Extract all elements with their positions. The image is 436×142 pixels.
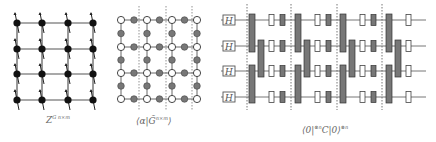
- arrow-head-icon: [39, 89, 42, 92]
- white-node: [168, 95, 175, 102]
- white-node: [168, 69, 175, 76]
- single-qubit-gate: [360, 66, 365, 77]
- circuit-label: ⟨0|⊗nC|0⟩⊗n: [302, 124, 348, 135]
- two-qubit-gate: [258, 40, 264, 77]
- white-node: [143, 43, 150, 50]
- gray-node: [156, 70, 163, 77]
- single-qubit-gate: [269, 15, 274, 26]
- arrow-head-icon: [65, 89, 68, 92]
- two-qubit-gate: [340, 65, 346, 103]
- single-qubit-gate: [269, 41, 274, 52]
- single-qubit-gate-filled: [326, 92, 331, 103]
- gray-node: [181, 70, 188, 77]
- single-qubit-gate-filled: [326, 41, 331, 52]
- spin-node: [13, 70, 20, 77]
- single-qubit-gate: [269, 92, 274, 103]
- spin-node: [13, 96, 20, 103]
- gray-node: [169, 57, 176, 64]
- spin-node: [38, 96, 45, 103]
- single-qubit-gate-filled: [280, 66, 285, 77]
- tensor-grid-label: ⟨α|G̃n×m⟩: [136, 115, 171, 126]
- two-qubit-gate: [349, 40, 355, 77]
- spin-node: [38, 70, 45, 77]
- white-node: [168, 16, 175, 23]
- gray-node: [131, 96, 138, 103]
- two-qubit-gate: [295, 65, 301, 103]
- ising-lattice: [13, 12, 96, 110]
- single-qubit-gate: [315, 41, 320, 52]
- spin-node: [64, 19, 71, 26]
- white-node: [168, 43, 175, 50]
- two-qubit-gate: [395, 40, 401, 77]
- single-qubit-gate: [269, 66, 274, 77]
- single-qubit-gate-filled: [371, 66, 376, 77]
- white-node: [143, 69, 150, 76]
- two-qubit-gate: [249, 65, 255, 103]
- single-qubit-gate: [360, 41, 365, 52]
- single-qubit-gate-filled: [326, 66, 331, 77]
- white-node: [117, 43, 124, 50]
- gray-node: [169, 30, 176, 37]
- gray-node: [144, 30, 151, 37]
- white-node: [193, 43, 200, 50]
- single-qubit-gate: [406, 15, 411, 26]
- single-qubit-gate: [406, 92, 411, 103]
- arrow-head-icon: [39, 12, 42, 15]
- gray-node: [131, 44, 138, 51]
- two-qubit-gate: [249, 14, 255, 52]
- arrow-head-icon: [14, 63, 17, 66]
- hadamard-label: H: [224, 67, 233, 77]
- spin-node: [89, 70, 96, 77]
- single-qubit-gate-filled: [371, 92, 376, 103]
- quantum-circuit: HHHH: [221, 4, 426, 110]
- two-qubit-gate: [386, 14, 392, 52]
- two-qubit-gate: [340, 14, 346, 52]
- arrow-head-icon: [90, 89, 93, 92]
- single-qubit-gate-filled: [371, 15, 376, 26]
- white-node: [193, 95, 200, 102]
- gray-node: [181, 17, 188, 24]
- white-node: [143, 95, 150, 102]
- white-node: [193, 16, 200, 23]
- gray-node: [156, 44, 163, 51]
- gray-node: [194, 30, 201, 37]
- spin-node: [64, 45, 71, 52]
- arrow-head-icon: [90, 63, 93, 66]
- arrow-head-icon: [39, 63, 42, 66]
- arrow-head-icon: [65, 63, 68, 66]
- arrow-head-icon: [14, 89, 17, 92]
- single-qubit-gate-filled: [280, 41, 285, 52]
- spin-node: [13, 19, 20, 26]
- single-qubit-gate-filled: [280, 15, 285, 26]
- arrow-head-icon: [90, 38, 93, 41]
- single-qubit-gate-filled: [371, 41, 376, 52]
- gray-node: [194, 83, 201, 90]
- single-qubit-gate: [315, 15, 320, 26]
- spin-node: [64, 70, 71, 77]
- white-node: [117, 95, 124, 102]
- arrow-head-icon: [90, 12, 93, 15]
- gray-node: [131, 70, 138, 77]
- gray-node: [194, 57, 201, 64]
- spin-node: [89, 96, 96, 103]
- spin-node: [89, 19, 96, 26]
- spin-node: [64, 96, 71, 103]
- gray-node: [156, 96, 163, 103]
- single-qubit-gate: [406, 41, 411, 52]
- gray-node: [131, 17, 138, 24]
- hadamard-label: H: [224, 42, 233, 52]
- gray-node: [118, 30, 125, 37]
- gray-node: [144, 83, 151, 90]
- ising-label: ZG n×m: [46, 114, 70, 125]
- gray-node: [181, 44, 188, 51]
- single-qubit-gate: [406, 66, 411, 77]
- gray-node: [181, 96, 188, 103]
- gray-node: [156, 17, 163, 24]
- hadamard-label: H: [224, 93, 233, 103]
- arrow-head-icon: [39, 38, 42, 41]
- arrow-head-icon: [14, 12, 17, 15]
- single-qubit-gate-filled: [326, 15, 331, 26]
- gray-node: [118, 57, 125, 64]
- single-qubit-gate: [315, 92, 320, 103]
- gray-node: [144, 57, 151, 64]
